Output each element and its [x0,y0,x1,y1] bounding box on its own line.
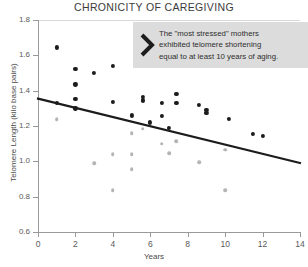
data-point [260,134,264,138]
x-axis-tick [225,232,226,237]
data-point [223,148,227,152]
data-point [141,99,145,103]
data-point [197,103,201,107]
data-point [130,152,134,156]
data-point [55,101,59,105]
data-point [73,97,77,101]
x-axis-tick-label: 2 [63,239,87,249]
data-point [167,152,171,156]
data-point [227,117,231,121]
x-axis-line [38,232,300,233]
data-point [111,64,115,68]
data-point [73,66,77,70]
x-axis-tick [188,232,189,237]
x-axis-tick [38,232,39,237]
data-point [160,142,164,146]
x-axis-tick-label: 12 [251,239,275,249]
x-axis-tick [113,232,114,237]
x-axis-tick-label: 6 [138,239,162,249]
data-point [130,131,134,135]
data-point [141,127,145,131]
data-point [251,132,255,136]
data-point [92,161,96,165]
data-point [111,189,115,193]
x-axis-tick [75,232,76,237]
data-point [92,71,96,75]
data-point [55,117,59,121]
callout-box: The "most stressed" mothers exhibited te… [133,22,308,68]
x-axis-tick-label: 4 [101,239,125,249]
x-axis-tick [263,232,264,237]
data-point [197,160,201,164]
data-point [129,113,133,117]
y-axis-label: Telomere Length (kilo base pairs) [9,43,18,203]
data-point [148,120,152,124]
x-axis-tick-label: 0 [26,239,50,249]
data-point [174,101,178,105]
data-point [130,167,134,171]
data-point [73,82,77,86]
data-point [159,114,163,118]
x-axis-label: Years [0,252,308,261]
data-point [73,106,77,110]
data-point [55,45,59,49]
data-point [111,152,115,156]
data-point [204,111,208,115]
x-axis-tick-label: 10 [213,239,237,249]
data-point [175,139,179,143]
data-point [111,100,115,104]
x-axis-tick-label: 14 [288,239,308,249]
callout-text: The "most stressed" mothers exhibited te… [159,28,308,62]
x-axis-tick [150,232,151,237]
x-axis-tick [300,232,301,237]
chart-screenshot: CHRONICITY OF CAREGIVING 1.81.61.41.21.0… [0,0,308,267]
data-point [174,92,178,96]
y-axis-tick-label: 1.8 [0,15,30,24]
y-axis-tick-label: 0.6 [0,227,30,236]
data-point [159,101,163,105]
chevron-right-icon [135,32,159,58]
data-point [223,189,227,193]
x-axis-tick-label: 8 [176,239,200,249]
page-title: CHRONICITY OF CAREGIVING [0,1,308,13]
data-point [167,126,171,130]
